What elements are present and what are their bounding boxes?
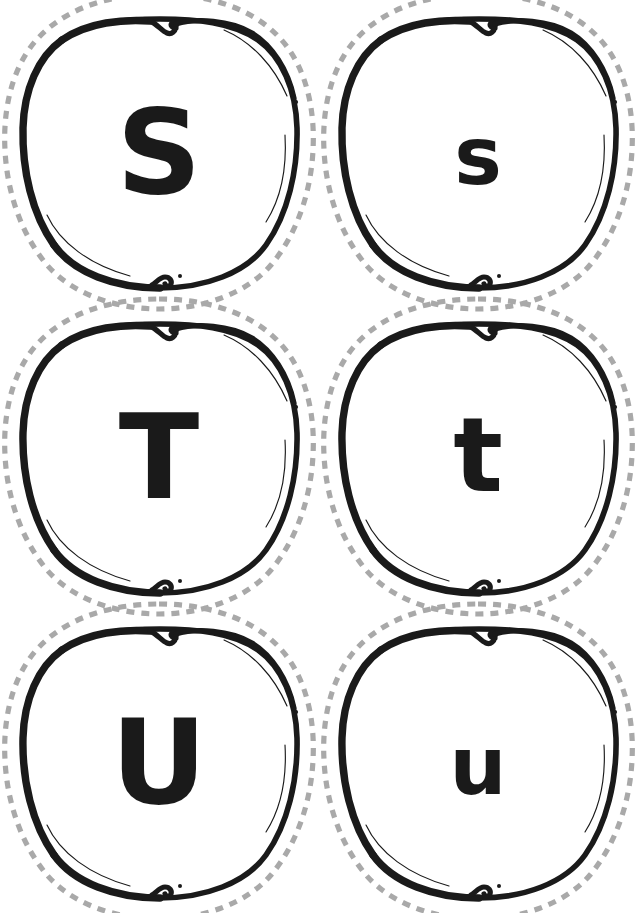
apple-card-graphic: s [319, 0, 637, 305]
card-letter: U [111, 693, 207, 831]
outline-speck-lower [293, 720, 296, 723]
outline-speck-bottom [178, 884, 182, 888]
outline-speck-upper [613, 100, 617, 104]
outline-speck-lower [612, 415, 615, 418]
outline-speck-upper [613, 405, 617, 409]
card-letter: t [453, 394, 503, 516]
outline-speck-upper [294, 405, 298, 409]
outline-speck-bottom [497, 579, 501, 583]
outline-speck-bottom [497, 884, 501, 888]
apple-letter-card-t-upper[interactable]: T [0, 305, 318, 610]
card-letter: S [117, 83, 202, 221]
outline-speck-lower [293, 415, 296, 418]
outline-speck-upper [294, 100, 298, 104]
apple-card-graphic: u [319, 610, 637, 913]
apple-card-graphic: U [0, 610, 318, 913]
outline-speck-bottom [497, 274, 501, 278]
outline-speck-lower [612, 720, 615, 723]
outline-speck-lower [293, 110, 296, 113]
apple-letter-card-u-upper[interactable]: U [0, 610, 318, 913]
apple-card-graphic: S [0, 0, 318, 305]
card-letter: u [450, 720, 507, 813]
apple-letter-card-t-lower[interactable]: t [319, 305, 637, 610]
outline-speck-bottom [178, 274, 182, 278]
apple-letter-card-u-lower[interactable]: u [319, 610, 637, 913]
apple-letter-card-s-lower[interactable]: s [319, 0, 637, 305]
card-letter: s [454, 110, 502, 203]
outline-speck-lower [612, 110, 615, 113]
outline-speck-bottom [178, 579, 182, 583]
apple-card-graphic: t [319, 305, 637, 610]
apple-letter-card-s-upper[interactable]: S [0, 0, 318, 305]
card-letter: T [119, 388, 200, 526]
outline-speck-upper [294, 710, 298, 714]
apple-card-graphic: T [0, 305, 318, 610]
outline-speck-upper [613, 710, 617, 714]
worksheet-page: S s [0, 0, 637, 913]
